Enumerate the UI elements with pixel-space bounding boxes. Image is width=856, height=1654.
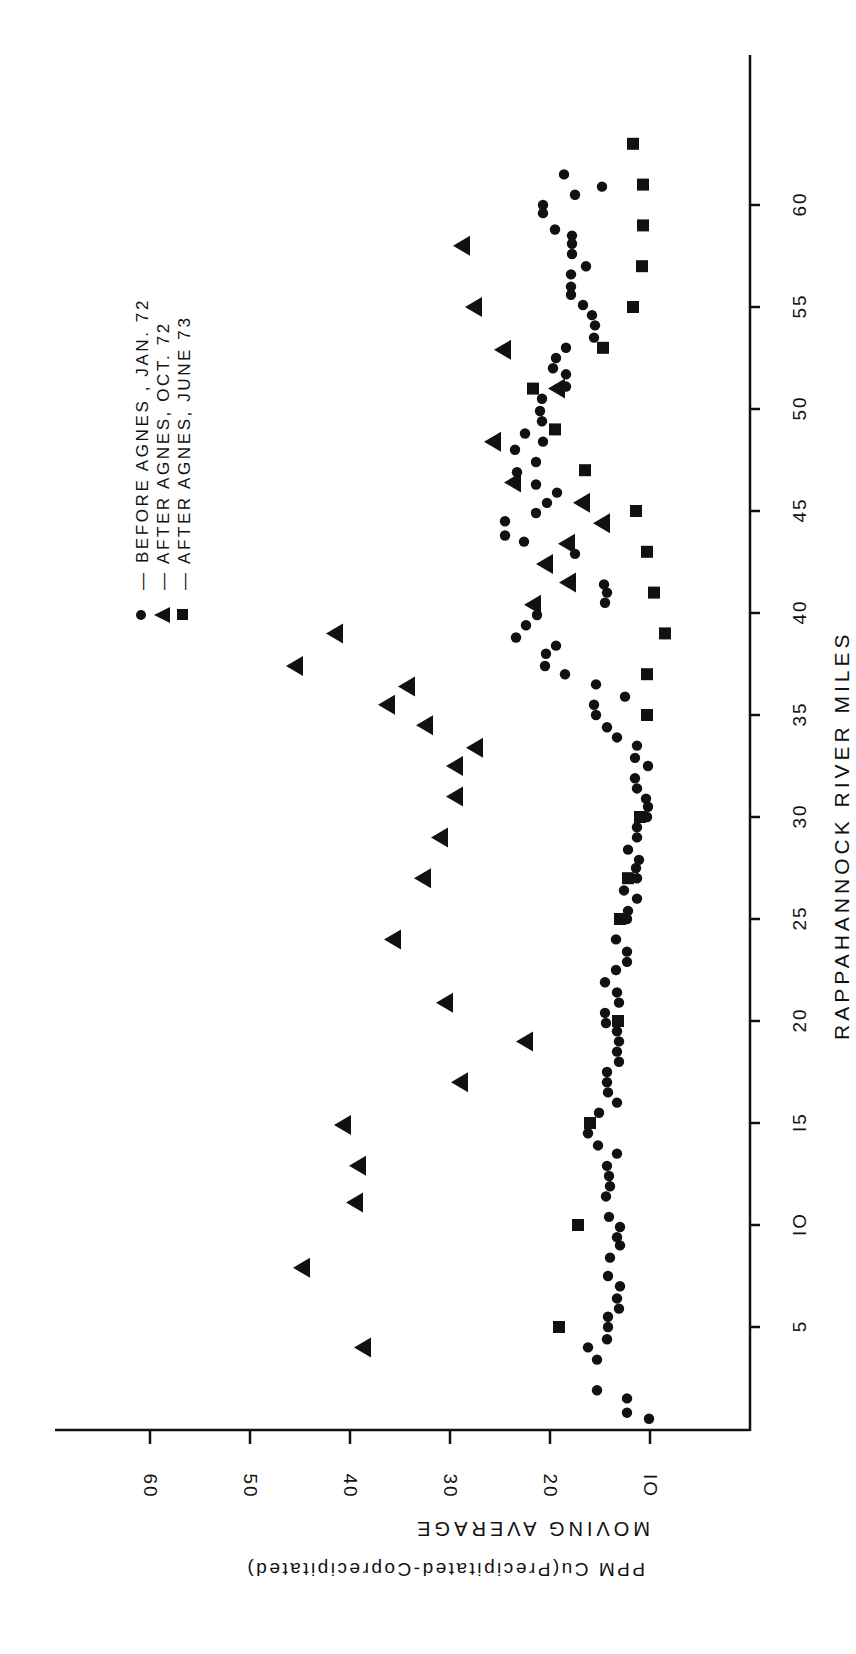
data-point-square xyxy=(636,260,648,272)
data-point-circle xyxy=(601,1191,611,1201)
data-point-circle xyxy=(622,946,632,956)
data-point-square xyxy=(627,301,639,313)
data-point-circle xyxy=(614,1057,624,1067)
data-point-circle xyxy=(603,1312,613,1322)
data-point-circle xyxy=(589,332,599,342)
data-point-square xyxy=(549,423,561,435)
data-point-circle xyxy=(531,457,541,467)
data-point-circle xyxy=(632,893,642,903)
series-after-agnes-june73 xyxy=(527,138,671,1333)
data-point-circle xyxy=(634,855,644,865)
data-point-circle xyxy=(644,1414,654,1424)
data-point-triangle xyxy=(524,595,541,615)
legend-circle-icon xyxy=(136,610,146,620)
data-point-triangle xyxy=(414,868,431,888)
data-point-circle xyxy=(537,394,547,404)
x-tick-label: 50 xyxy=(789,386,811,430)
data-point-circle xyxy=(531,508,541,518)
data-point-circle xyxy=(566,281,576,291)
data-point-square xyxy=(641,668,653,680)
data-point-circle xyxy=(531,479,541,489)
data-point-circle xyxy=(583,1128,593,1138)
data-point-square xyxy=(572,1219,584,1231)
data-point-circle xyxy=(552,487,562,497)
data-point-circle xyxy=(510,445,520,455)
data-point-circle xyxy=(605,1252,615,1262)
data-point-circle xyxy=(622,1393,632,1403)
chart-canvas xyxy=(0,0,856,1654)
y-tick-label: 50 xyxy=(239,1464,261,1508)
data-point-circle xyxy=(511,632,521,642)
data-point-square xyxy=(641,546,653,558)
data-point-circle xyxy=(519,536,529,546)
data-point-circle xyxy=(538,200,548,210)
data-point-triangle xyxy=(384,929,401,949)
legend-item-after-june73: — AFTER AGNES, JUNE 73 xyxy=(175,316,195,590)
data-point-circle xyxy=(500,530,510,540)
data-point-circle xyxy=(614,997,624,1007)
y-axis-ticks xyxy=(150,1430,650,1444)
y-tick-label: IO xyxy=(639,1464,661,1508)
data-point-circle xyxy=(632,822,642,832)
y-axis-title-line1: PPM Cu(Precipitated-Coprecipitated) xyxy=(245,1558,645,1580)
data-point-square xyxy=(553,1321,565,1333)
data-point-square xyxy=(612,1015,624,1027)
data-point-circle xyxy=(611,934,621,944)
data-point-square xyxy=(627,138,639,150)
data-point-circle xyxy=(602,1067,612,1077)
data-point-square xyxy=(584,1117,596,1129)
x-tick-label: 25 xyxy=(789,896,811,940)
data-point-circle xyxy=(614,1303,624,1313)
data-point-circle xyxy=(600,977,610,987)
data-point-triangle xyxy=(398,676,415,696)
data-point-circle xyxy=(612,732,622,742)
legend-item-after-oct72: — AFTER AGNES, OCT. 72 xyxy=(154,321,174,590)
data-point-square xyxy=(527,383,539,395)
x-tick-label: 5 xyxy=(789,1304,811,1348)
data-point-triangle xyxy=(484,432,501,452)
data-point-circle xyxy=(620,691,630,701)
data-point-triangle xyxy=(286,656,303,676)
y-tick-label: 30 xyxy=(439,1464,461,1508)
data-point-circle xyxy=(560,669,570,679)
data-point-triangle xyxy=(558,534,575,554)
data-point-circle xyxy=(630,753,640,763)
data-point-triangle xyxy=(536,554,553,574)
data-point-circle xyxy=(551,640,561,650)
data-point-circle xyxy=(599,579,609,589)
data-point-circle xyxy=(623,844,633,854)
data-point-circle xyxy=(602,722,612,732)
data-point-circle xyxy=(612,1026,622,1036)
data-point-circle xyxy=(603,1271,613,1281)
data-point-triangle xyxy=(416,715,433,735)
data-point-triangle xyxy=(334,1115,351,1135)
data-point-circle xyxy=(612,1097,622,1107)
data-point-circle xyxy=(630,773,640,783)
data-point-circle xyxy=(590,320,600,330)
x-tick-label: 45 xyxy=(789,488,811,532)
data-point-triangle xyxy=(349,1156,366,1176)
data-point-square xyxy=(622,872,634,884)
y-tick-label: 20 xyxy=(539,1464,561,1508)
data-point-square xyxy=(648,587,660,599)
data-point-circle xyxy=(589,700,599,710)
data-point-square xyxy=(659,627,671,639)
data-point-circle xyxy=(591,679,601,689)
data-point-circle xyxy=(521,620,531,630)
data-point-circle xyxy=(622,1407,632,1417)
data-point-triangle xyxy=(446,787,463,807)
data-point-triangle xyxy=(453,236,470,256)
data-point-circle xyxy=(611,965,621,975)
data-point-square xyxy=(637,219,649,231)
x-tick-label: 60 xyxy=(789,182,811,226)
data-point-circle xyxy=(583,1342,593,1352)
data-point-square xyxy=(637,179,649,191)
data-point-square xyxy=(597,342,609,354)
data-point-triangle xyxy=(559,572,576,592)
data-point-circle xyxy=(614,1036,624,1046)
data-point-circle xyxy=(587,310,597,320)
data-point-circle xyxy=(632,783,642,793)
data-point-circle xyxy=(603,1322,613,1332)
data-point-circle xyxy=(567,230,577,240)
data-point-circle xyxy=(593,1140,603,1150)
